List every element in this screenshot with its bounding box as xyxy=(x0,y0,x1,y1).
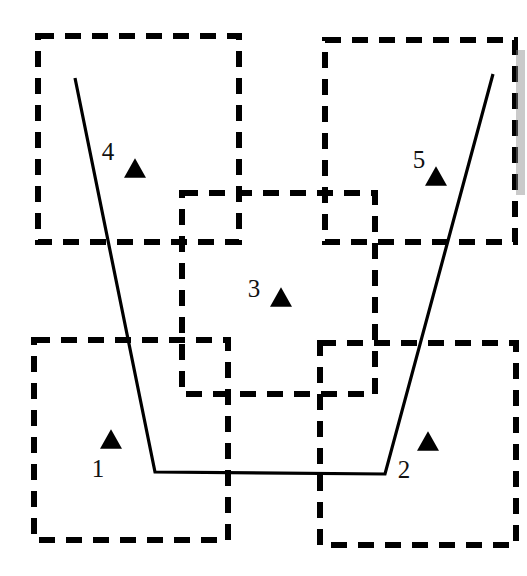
node-label-4: 4 xyxy=(102,138,115,165)
node-label-1: 1 xyxy=(92,455,105,482)
node-label-5: 5 xyxy=(413,146,426,173)
diagram-canvas: 1 2 3 4 5 xyxy=(0,0,527,576)
scan-edge-smudge xyxy=(516,50,525,195)
figure-root: 1 2 3 4 5 xyxy=(0,0,527,576)
node-label-3: 3 xyxy=(248,275,261,302)
node-label-2: 2 xyxy=(398,456,411,483)
figure-background xyxy=(0,0,527,576)
